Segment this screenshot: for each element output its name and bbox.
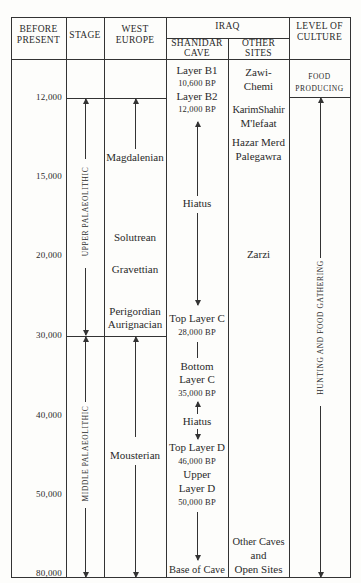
culture-food-producing-line2: PRODUCING [289, 83, 350, 95]
header-shanidar-line1: SHANIDAR [166, 38, 228, 48]
shanidar-bottom-layer-c-2: Layer C [166, 373, 228, 386]
shanidar-hiatus-1: Hiatus [166, 197, 228, 210]
west-europe-gravettian: Gravettian [104, 263, 166, 276]
shanidar-top-layer-c-date: 28,000 BP [166, 326, 228, 339]
mousterian-arrow-down-icon [135, 465, 136, 577]
hiatus1-arrow-down-icon [197, 213, 198, 305]
header-culture-line1: LEVEL OF [289, 21, 350, 32]
hunting-arrow-up-icon [320, 98, 321, 258]
upper-palaeolithic-arrow-down-icon [85, 268, 86, 335]
culture-food-producing-line1: FOOD [289, 71, 350, 83]
shanidar-bottom-layer-c-date: 35,000 BP [166, 387, 228, 400]
shanidar-hiatus-2: Hiatus [166, 415, 228, 428]
shanidar-top-layer-d-date: 46,000 BP [166, 455, 228, 468]
col-divider-stage [66, 17, 67, 577]
header-other-sites-line1: OTHER [228, 38, 289, 48]
tick-80000: 80,000 [12, 568, 62, 578]
west-europe-solutrean: Solutrean [104, 231, 166, 244]
header-west-europe-line1: WEST [104, 24, 166, 35]
header-west-europe-line2: EUROPE [104, 35, 166, 46]
shanidar-layer-b1-date: 10,600 BP [166, 77, 228, 90]
stage-upper-palaeolithic: UPPER PALAEOLITHIC [81, 157, 90, 267]
shanidar-layer-b1: Layer B1 [166, 64, 228, 77]
west-europe-aurignacian: Aurignacian [104, 318, 166, 331]
west-europe-mousterian: Mousterian [104, 449, 166, 462]
shanidar-top-layer-d: Top Layer D [166, 441, 228, 454]
site-palegawra: Palegawra [228, 150, 289, 163]
shanidar-layer-b2-date: 12,000 BP [166, 103, 228, 116]
header-culture-line2: CULTURE [289, 32, 350, 43]
header-other-sites-line2: SITES [228, 48, 289, 58]
shanidar-upper-layer-d-1: Upper [166, 468, 228, 481]
header-before-present-line2: PRESENT [11, 35, 66, 46]
table-top-border [11, 17, 350, 18]
upper-palaeolithic-arrow-up-icon [85, 99, 86, 159]
tick-50000: 50,000 [12, 489, 62, 499]
hiatus2-arrow-down-icon [197, 429, 198, 439]
table-right-border [350, 17, 351, 578]
header-other-sites: OTHER SITES [228, 38, 289, 58]
site-zawi-chemi-2: Chemi [228, 80, 289, 93]
shanidar-upper-layer-d-2: Layer D [166, 482, 228, 495]
culture-food-producing: FOOD PRODUCING [289, 71, 350, 95]
header-before-present-line1: BEFORE [11, 24, 66, 35]
tick-15000: 15,000 [12, 171, 62, 181]
header-stage: STAGE [66, 30, 104, 41]
site-karim-shahir: KarimShahir [228, 103, 289, 116]
west-europe-perigordian: Perigordian [104, 305, 166, 318]
site-zawi-chemi-1: Zawi- [228, 66, 289, 79]
hiatus2-arrow-up-icon [197, 402, 198, 414]
tick-12000: 12,000 [12, 92, 62, 102]
header-level-of-culture: LEVEL OF CULTURE [289, 21, 350, 43]
tick-30000: 30,000 [12, 330, 62, 340]
hiatus1-arrow-up-icon [197, 122, 198, 196]
site-other-caves-1: Other Caves [228, 535, 289, 548]
col-divider-west-europe [104, 17, 105, 577]
site-other-caves-2: and [228, 549, 289, 562]
hunting-arrow-down-icon [320, 406, 321, 577]
site-other-caves-3: Open Sites [228, 563, 289, 576]
tick-40000: 40,000 [12, 410, 62, 420]
middle-palaeolithic-arrow-up-icon [85, 337, 86, 402]
header-iraq: IRAQ [166, 21, 289, 32]
line-30000 [66, 336, 166, 337]
shanidar-base-of-cave: Base of Cave [166, 563, 228, 576]
site-mlefaat: M'lefaat [228, 117, 289, 130]
site-zarzi: Zarzi [228, 248, 289, 261]
site-hazar-merd: Hazar Merd [228, 136, 289, 149]
magdalenian-arrow-up-icon [135, 99, 136, 149]
stage-middle-palaeolithic: MIDDLE PALAEOLITHIC [81, 399, 90, 509]
col-divider-culture [289, 17, 290, 577]
shanidar-top-layer-c: Top Layer C [166, 312, 228, 325]
shanidar-upper-layer-d-date: 50,000 BP [166, 496, 228, 509]
header-shanidar-cave: SHANIDAR CAVE [166, 38, 228, 58]
shanidar-bottom-layer-c-1: Bottom [166, 360, 228, 373]
tick-20000: 20,000 [12, 250, 62, 260]
middle-palaeolithic-arrow-down-icon [85, 508, 86, 577]
shanidar-layer-b2: Layer B2 [166, 90, 228, 103]
culture-hunting-gathering: HUNTING AND FOOD GATHERING [316, 253, 325, 403]
base-arrow-down-icon [197, 512, 198, 560]
header-shanidar-line2: CAVE [166, 48, 228, 58]
west-europe-magdalenian: Magdalenian [104, 151, 166, 164]
header-bottom-border [11, 59, 350, 60]
header-west-europe: WEST EUROPE [104, 24, 166, 46]
header-before-present: BEFORE PRESENT [11, 24, 66, 46]
layer-c-connector [197, 342, 198, 358]
line-12000 [66, 98, 166, 99]
mousterian-arrow-up-icon [135, 337, 136, 437]
